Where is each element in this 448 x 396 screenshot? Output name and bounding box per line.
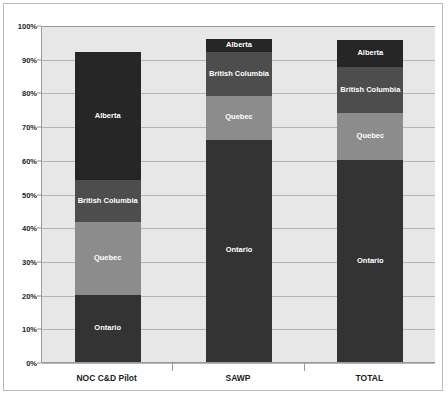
bar-segment-label: British Columbia — [209, 70, 269, 79]
bar-group: AlbertaBritish ColumbiaQuebecOntario — [42, 26, 173, 362]
bar-segment[interactable]: Ontario — [206, 140, 272, 362]
bar-group: AlbertaBritish ColumbiaQuebecOntario — [173, 26, 304, 362]
plot-area: AlbertaBritish ColumbiaQuebecOntarioAlbe… — [41, 26, 435, 363]
bar-segment[interactable]: Quebec — [206, 96, 272, 140]
x-axis-category-label: NOC C&D Pilot — [76, 373, 136, 383]
bar-segment-label: Alberta — [95, 112, 121, 121]
y-axis-tick-label: 10% — [22, 325, 37, 334]
y-axis-tick-label: 50% — [22, 190, 37, 199]
bar-segment-label: British Columbia — [78, 197, 138, 206]
bar-segment-label: Alberta — [357, 49, 383, 58]
bar-segment-label: Ontario — [94, 324, 121, 333]
bar-segment[interactable]: Ontario — [337, 160, 403, 362]
y-axis-tick-label: 80% — [22, 89, 37, 98]
bar-segment[interactable]: British Columbia — [337, 67, 403, 112]
bar-segment-label: Quebec — [357, 132, 385, 141]
bar-series-container: AlbertaBritish ColumbiaQuebecOntarioAlbe… — [42, 26, 435, 362]
stacked-bar[interactable]: AlbertaBritish ColumbiaQuebecOntario — [337, 25, 403, 362]
x-axis-category-label: TOTAL — [356, 373, 384, 383]
bar-segment-label: Alberta — [226, 41, 252, 50]
bar-segment[interactable]: Alberta — [75, 52, 141, 180]
bar-segment-label: Ontario — [357, 257, 384, 266]
bar-segment[interactable]: Alberta — [337, 40, 403, 67]
bar-segment-label: British Columbia — [340, 86, 400, 95]
y-axis-tick-label: 30% — [22, 257, 37, 266]
x-axis: NOC C&D PilotSAWPTOTAL — [41, 363, 435, 393]
y-axis: 100%90%80%70%60%50%40%30%20%10%0% — [4, 26, 41, 363]
bar-segment[interactable]: British Columbia — [75, 180, 141, 222]
y-axis-tick-label: 60% — [22, 156, 37, 165]
y-axis-tick-label: 40% — [22, 224, 37, 233]
stacked-bar[interactable]: AlbertaBritish ColumbiaQuebecOntario — [206, 25, 272, 362]
bar-segment[interactable]: Quebec — [75, 222, 141, 294]
x-axis-separator — [304, 363, 305, 371]
bar-segment[interactable]: British Columbia — [206, 52, 272, 96]
bar-segment-label: Quebec — [225, 113, 253, 122]
y-axis-tick-label: 20% — [22, 291, 37, 300]
bar-group: AlbertaBritish ColumbiaQuebecOntario — [305, 26, 436, 362]
chart-frame: 100%90%80%70%60%50%40%30%20%10%0% Albert… — [3, 3, 443, 391]
bar-segment-label: Ontario — [226, 246, 253, 255]
x-axis-category-label: SAWP — [225, 373, 250, 383]
bar-segment[interactable]: Alberta — [206, 39, 272, 52]
y-axis-tick-label: 0% — [26, 359, 37, 368]
y-axis-tick-label: 90% — [22, 55, 37, 64]
stacked-bar[interactable]: AlbertaBritish ColumbiaQuebecOntario — [75, 25, 141, 362]
y-axis-tick-label: 100% — [18, 22, 37, 31]
y-axis-tick-label: 70% — [22, 123, 37, 132]
x-axis-separator — [172, 363, 173, 371]
bar-segment[interactable]: Ontario — [75, 295, 141, 362]
bar-segment[interactable]: Quebec — [337, 113, 403, 160]
bar-segment-label: Quebec — [94, 254, 122, 263]
